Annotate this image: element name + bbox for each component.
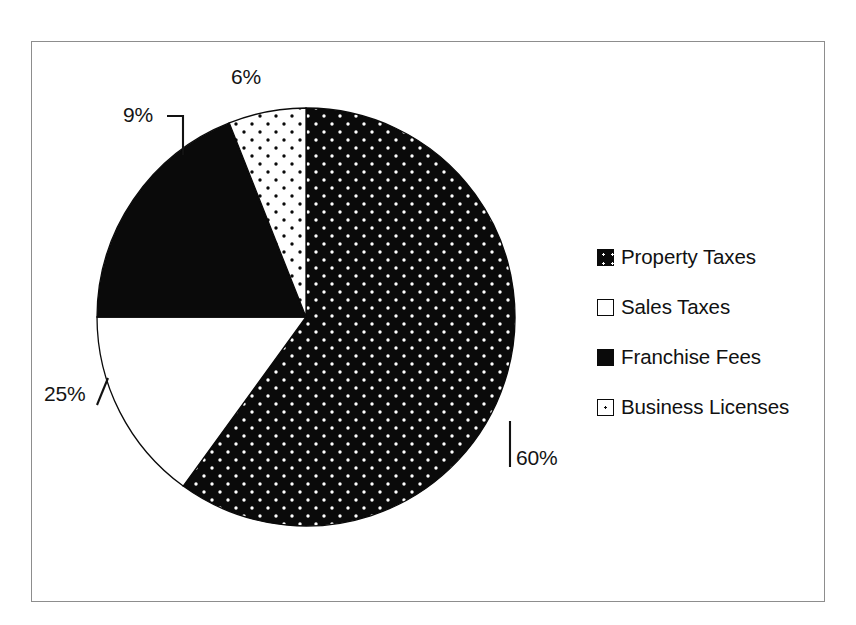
data-label-sales-taxes: 25%: [44, 383, 85, 404]
leader-line-sales-taxes: [97, 378, 108, 405]
legend-item-franchise-fees[interactable]: Franchise Fees: [597, 332, 827, 382]
data-label-property-taxes: 60%: [516, 447, 557, 468]
legend-item-property-taxes[interactable]: Property Taxes: [597, 232, 827, 282]
legend-label-sales-taxes: Sales Taxes: [621, 297, 730, 318]
data-label-business-licenses: 6%: [231, 66, 261, 87]
legend-label-business-licenses: Business Licenses: [621, 397, 789, 418]
legend-item-business-licenses[interactable]: Business Licenses: [597, 382, 827, 432]
legend-label-property-taxes: Property Taxes: [621, 247, 756, 268]
legend-swatch-business-licenses-icon: [597, 399, 614, 416]
legend-swatch-sales-taxes-icon: [597, 299, 614, 316]
legend-swatch-franchise-fees-icon: [597, 349, 614, 366]
data-label-franchise-fees: 9%: [123, 104, 153, 125]
legend-label-franchise-fees: Franchise Fees: [621, 347, 761, 368]
chart-legend: Property Taxes Sales Taxes Franchise Fee…: [597, 232, 827, 432]
legend-swatch-property-taxes-icon: [597, 249, 614, 266]
legend-item-sales-taxes[interactable]: Sales Taxes: [597, 282, 827, 332]
